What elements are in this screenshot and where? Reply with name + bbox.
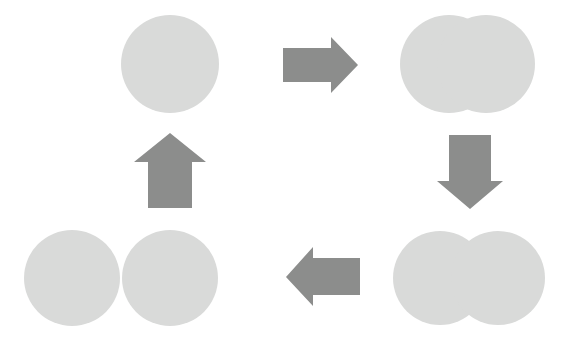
cell-circle [121, 15, 219, 113]
stage-2-elongated-cell [400, 15, 535, 113]
daughter-cell-left [24, 230, 120, 326]
diagram-canvas [0, 0, 572, 349]
cell-circle-right [437, 15, 535, 113]
stage-3-constricted-cell [393, 231, 545, 325]
cell-circle-right [451, 231, 545, 325]
cell-division-diagram [0, 0, 572, 349]
stage-1-single-cell [121, 15, 219, 113]
daughter-cell-right [122, 230, 218, 326]
